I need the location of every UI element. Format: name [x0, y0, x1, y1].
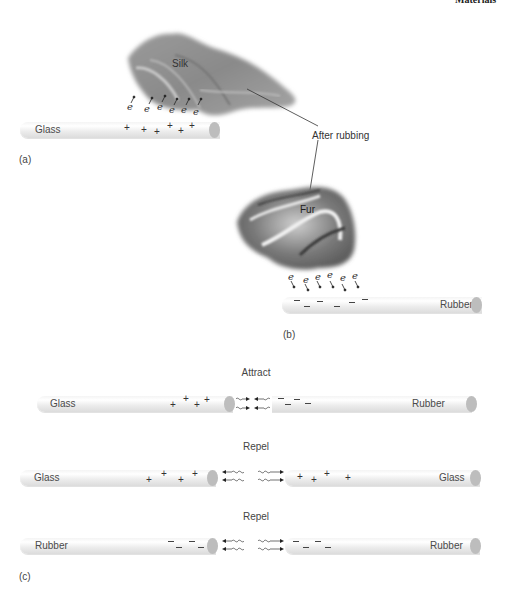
rod-end-cap [207, 470, 218, 486]
rod-label: Rubber [412, 398, 445, 409]
positive-charge: + [178, 475, 184, 485]
negative-charge [317, 301, 323, 302]
negative-charge [334, 306, 340, 307]
rod-label: Glass [50, 398, 76, 409]
fur-label: Fur [300, 204, 315, 215]
positive-charge: + [311, 475, 317, 485]
positive-charge: + [345, 473, 351, 483]
negative-charge [176, 547, 182, 548]
electron-label: e [327, 269, 333, 280]
negative-charge [304, 306, 310, 307]
negative-charge [315, 541, 321, 542]
positive-charge: + [324, 469, 330, 479]
positive-charge: + [154, 127, 160, 137]
electron-label: e [181, 104, 187, 115]
rod-end-cap [470, 470, 481, 486]
electron-label: e [303, 274, 309, 285]
rod-end-cap [471, 297, 482, 313]
caption-b: (b) [283, 329, 295, 340]
positive-charge: + [192, 469, 198, 479]
positive-charge: + [178, 126, 184, 136]
negative-charge [293, 541, 299, 542]
negative-charge [303, 547, 309, 548]
electron-label: e [157, 101, 163, 112]
electron-label: e [127, 101, 133, 112]
negative-charge [305, 403, 311, 404]
positive-charge: + [161, 469, 167, 479]
rod-label: Glass [439, 472, 465, 483]
positive-charge: + [204, 395, 210, 405]
negative-charge [189, 541, 195, 542]
negative-charge [362, 299, 368, 300]
rod-label: Rubber [35, 540, 68, 551]
negative-charge [325, 547, 331, 548]
negative-charge [294, 399, 300, 400]
positive-charge: + [183, 394, 189, 404]
electron-label: e [169, 104, 175, 115]
positive-charge: + [194, 400, 200, 410]
rod-end-cap [224, 396, 235, 412]
rod-label: Glass [34, 472, 60, 483]
row-heading-repel: Repel [206, 511, 306, 522]
electron-label: e [315, 271, 321, 282]
positive-charge: + [189, 121, 195, 131]
row-heading-repel: Repel [206, 441, 306, 452]
rod-end-cap [466, 396, 477, 412]
negative-charge [349, 302, 355, 303]
rod-label: Glass [35, 124, 61, 135]
rod-end-cap [470, 538, 481, 554]
negative-charge [285, 404, 291, 405]
electron-label: e [288, 271, 294, 282]
rod-end-cap [209, 122, 220, 138]
row-heading-attract: Attract [206, 367, 306, 378]
positive-charge: + [297, 472, 303, 482]
negative-charge [294, 300, 300, 301]
positive-charge: + [124, 123, 130, 133]
rod-label: Rubber [430, 540, 463, 551]
electron-label: e [340, 272, 346, 283]
rod-end-cap [207, 538, 218, 554]
positive-charge: + [146, 475, 152, 485]
after-rubbing-label: After rubbing [312, 130, 369, 141]
negative-charge [168, 541, 174, 542]
positive-charge: + [170, 400, 176, 410]
rod-label: Rubber [440, 299, 473, 310]
negative-charge [198, 547, 204, 548]
electron-label: e [193, 106, 199, 117]
rubber-rod: Rubber [282, 297, 482, 313]
negative-charge [278, 398, 284, 399]
glass-rod: Glass [20, 470, 216, 486]
positive-charge: + [141, 125, 147, 135]
rubber-rod: Rubber [272, 396, 472, 412]
rubber-rod: Rubber [20, 538, 216, 554]
caption-a: (a) [19, 154, 31, 165]
electron-label: e [144, 103, 150, 114]
electron-label: e [352, 270, 358, 281]
silk-label: Silk [172, 58, 188, 69]
positive-charge: + [167, 121, 173, 131]
caption-c: (c) [19, 571, 31, 582]
